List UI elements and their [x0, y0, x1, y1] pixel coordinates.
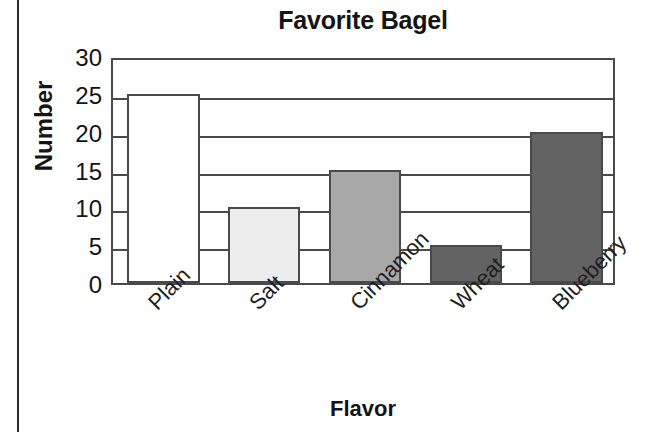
y-tick-label: 25	[40, 82, 102, 110]
bar-chart-figure: Favorite Bagel Number 302520151050 Plain…	[0, 0, 648, 432]
y-tick-label: 0	[40, 271, 102, 299]
y-tick-label: 5	[40, 233, 102, 261]
y-tick-label: 15	[40, 158, 102, 186]
page-edge-rule	[17, 0, 19, 432]
y-tick-label: 20	[40, 120, 102, 148]
chart-title: Favorite Bagel	[111, 6, 615, 35]
bar-plain	[127, 94, 200, 283]
x-axis-label: Flavor	[111, 396, 615, 422]
y-tick-label: 10	[40, 195, 102, 223]
y-tick-label: 30	[40, 44, 102, 72]
bar-salt	[228, 207, 301, 283]
plot-area	[111, 58, 615, 285]
